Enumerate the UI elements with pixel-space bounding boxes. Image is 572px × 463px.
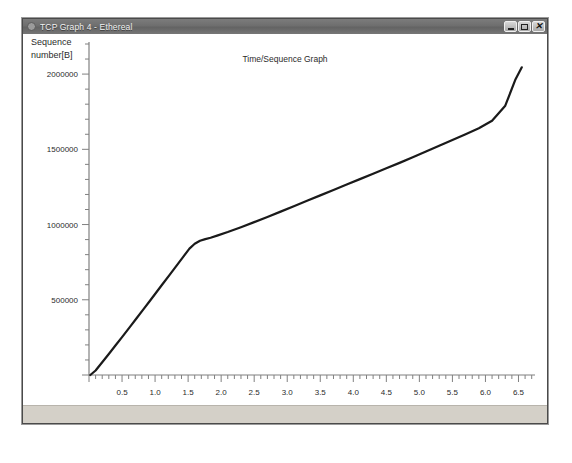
svg-text:6.5: 6.5 <box>513 388 525 397</box>
minimize-icon <box>508 28 514 30</box>
minimize-button[interactable] <box>504 21 517 32</box>
status-bar <box>23 405 547 423</box>
svg-text:2.5: 2.5 <box>249 388 261 397</box>
svg-text:1.5: 1.5 <box>183 388 195 397</box>
maximize-icon <box>521 24 528 30</box>
maximize-button[interactable] <box>518 21 531 32</box>
window-controls: ✕ <box>504 21 545 32</box>
window-title: TCP Graph 4 - Ethereal <box>40 22 504 32</box>
plot-ticks <box>82 44 532 382</box>
plot-axes <box>89 42 535 375</box>
app-icon <box>27 22 36 31</box>
close-icon: ✕ <box>535 22 543 31</box>
screenshot-root: TCP Graph 4 - Ethereal ✕ Sequencenumber[… <box>0 0 572 463</box>
svg-text:3.0: 3.0 <box>282 388 294 397</box>
svg-text:2000000: 2000000 <box>47 70 79 79</box>
svg-text:4.0: 4.0 <box>348 388 360 397</box>
window-titlebar[interactable]: TCP Graph 4 - Ethereal ✕ <box>23 19 547 34</box>
tcp-graph-window: TCP Graph 4 - Ethereal ✕ Sequencenumber[… <box>22 18 548 424</box>
svg-text:3.5: 3.5 <box>315 388 327 397</box>
svg-text:5.5: 5.5 <box>447 388 459 397</box>
svg-text:1500000: 1500000 <box>47 145 79 154</box>
svg-text:1000000: 1000000 <box>47 221 79 230</box>
svg-text:500000: 500000 <box>51 296 78 305</box>
close-button[interactable]: ✕ <box>532 21 545 32</box>
svg-text:2.0: 2.0 <box>216 388 228 397</box>
window-client-area: Sequencenumber[B] Time/Sequence Graph 0.… <box>23 34 547 423</box>
plot-svg: 0.51.01.52.02.53.03.54.04.55.05.56.06.55… <box>23 34 547 405</box>
plot-tick-labels: 0.51.01.52.02.53.03.54.04.55.05.56.06.55… <box>47 70 525 397</box>
plot-series <box>90 67 521 375</box>
time-sequence-chart[interactable]: Sequencenumber[B] Time/Sequence Graph 0.… <box>23 34 547 405</box>
svg-text:6.0: 6.0 <box>480 388 492 397</box>
svg-text:1.0: 1.0 <box>150 388 162 397</box>
series-line <box>90 67 521 375</box>
svg-text:5.0: 5.0 <box>414 388 426 397</box>
svg-text:0.5: 0.5 <box>116 388 128 397</box>
svg-text:4.5: 4.5 <box>381 388 393 397</box>
